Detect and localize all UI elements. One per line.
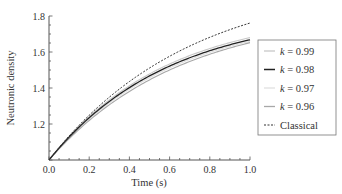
axes: 0.00.20.40.60.81.01.21.41.61.8 [33,11,257,176]
legend-label: k = 0.97 [280,83,314,94]
series-line [49,23,250,160]
legend-label: k = 0.99 [280,46,314,57]
line-chart: 0.00.20.40.60.81.01.21.41.61.8 Time (s) … [0,0,342,194]
y-axis-title: Neutronic density [5,50,16,126]
x-tick-label: 0.6 [163,164,176,175]
x-tick-label: 0.8 [204,164,217,175]
series-line [49,38,250,160]
x-tick-label: 1.0 [244,164,257,175]
series-line [49,41,250,160]
legend: k = 0.99k = 0.98k = 0.97k = 0.96Classica… [258,40,336,135]
y-tick-label: 1.4 [33,83,46,94]
x-tick-label: 0.2 [83,164,96,175]
y-tick-label: 1.8 [33,11,46,22]
legend-label: k = 0.98 [280,64,314,75]
y-tick-label: 1.6 [33,47,46,58]
legend-label: k = 0.96 [280,101,314,112]
plot-lines [49,23,250,160]
series-line [49,43,250,160]
x-axis-title: Time (s) [131,177,167,189]
x-tick-label: 0.0 [43,164,56,175]
legend-label: Classical [280,120,318,131]
y-tick-label: 1.2 [33,119,46,130]
series-line [49,40,250,160]
x-tick-label: 0.4 [123,164,136,175]
